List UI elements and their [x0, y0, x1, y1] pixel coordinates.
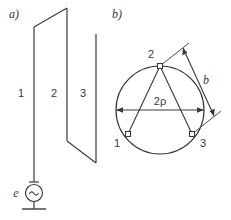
b-dimension-line [183, 48, 214, 116]
panel-b-label: b) [112, 7, 122, 21]
plane-top-edge [34, 8, 67, 27]
source-label: e [13, 186, 19, 200]
panel-b-group: 2ρ b 1 2 3 b) [112, 7, 221, 154]
node-marker-1 [126, 132, 131, 137]
diameter-dimension [116, 107, 204, 112]
figure-drawing: 1 2 3 e a) [0, 0, 231, 220]
ac-source-symbol [22, 182, 46, 209]
diameter-arrow-right [197, 107, 204, 112]
conductor-label-2: 2 [51, 87, 57, 99]
conductor-label-3: 3 [80, 87, 86, 99]
b-dimension [182, 48, 214, 116]
b-extension-lower [192, 111, 221, 134]
node-marker-3 [190, 132, 195, 137]
diameter-label: 2ρ [154, 95, 166, 107]
plane-bottom-edge [67, 141, 96, 163]
b-arrow-lower [210, 108, 215, 116]
diameter-arrow-left [116, 107, 123, 112]
panel-a-group: 1 2 3 e a) [9, 7, 96, 209]
slanted-plane-outline [34, 8, 96, 163]
chord-length-label: b [203, 73, 209, 87]
b-arrow-upper [182, 48, 187, 56]
node-label-2: 2 [148, 48, 154, 60]
node-marker-2 [158, 64, 163, 69]
ac-tilde-icon [30, 192, 39, 195]
panel-a-label: a) [9, 7, 19, 21]
node-label-3: 3 [200, 137, 206, 149]
node-label-1: 1 [114, 137, 120, 149]
b-extension-upper [160, 43, 189, 66]
figure-container: 1 2 3 e a) [0, 0, 231, 220]
b-extension-lines [160, 43, 221, 134]
conductor-label-1: 1 [18, 87, 24, 99]
